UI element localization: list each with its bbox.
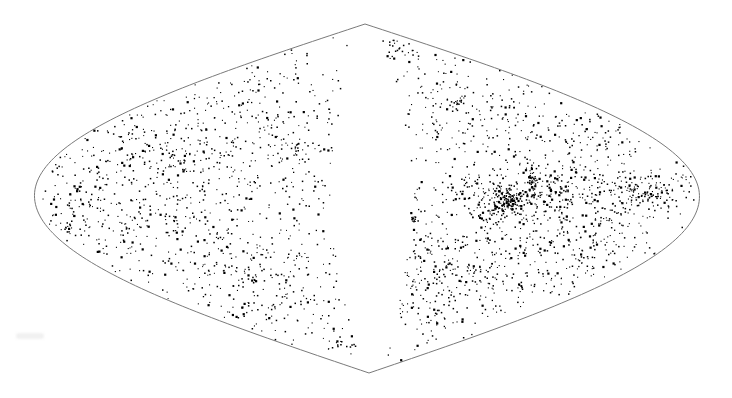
faint-smudge xyxy=(16,333,44,339)
sky-outline xyxy=(34,24,699,373)
sky-map-chart xyxy=(0,0,732,398)
galaxy-points xyxy=(43,37,695,361)
